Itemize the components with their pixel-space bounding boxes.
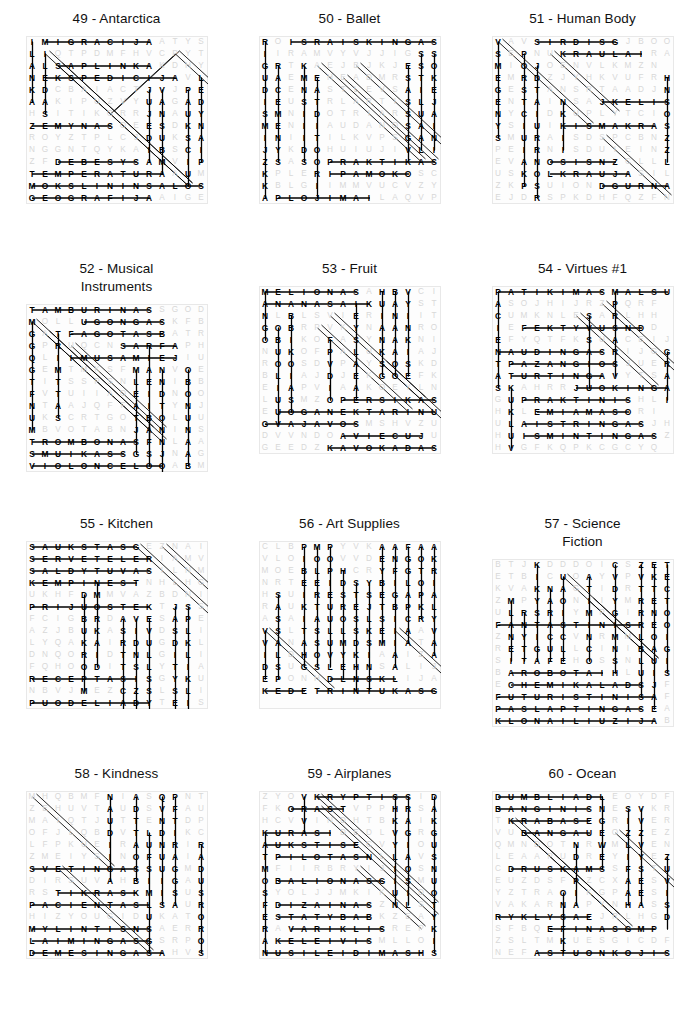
grid-letter: O xyxy=(285,803,298,815)
grid-letter: F xyxy=(557,875,570,887)
grid-letter: K xyxy=(52,96,65,108)
grid-letter: R xyxy=(272,577,285,589)
grid-letter: G xyxy=(609,703,622,715)
grid-letter: S xyxy=(505,120,518,132)
grid-letter: I xyxy=(544,36,557,48)
puzzle-board[interactable]: DUMBLIADLEOYDFBANGINISNESVKRTKRABASEGRIV… xyxy=(492,791,674,959)
grid-letter: O xyxy=(298,192,311,204)
grid-letter: O xyxy=(259,875,272,887)
grid-letter: N xyxy=(635,382,648,394)
puzzle-board[interactable]: TAMBURINASSGODMOLLUGONGASKFBGATFAGOTASBA… xyxy=(26,304,208,472)
grid-letter: R xyxy=(39,436,52,448)
grid-letter: M xyxy=(311,48,324,60)
grid-letter: B xyxy=(492,803,505,815)
grid-letter: J xyxy=(635,947,648,959)
grid-letter: K xyxy=(557,108,570,120)
grid-letter: I xyxy=(363,430,376,442)
grid-letter: F xyxy=(117,364,130,376)
grid-letter: I xyxy=(635,144,648,156)
grid-letter: M xyxy=(544,679,557,691)
grid-letter: D xyxy=(635,84,648,96)
grid-letter: K xyxy=(505,406,518,418)
grid-letter: J xyxy=(622,36,635,48)
grid-letter: L xyxy=(428,601,441,613)
grid-letter: Y xyxy=(622,370,635,382)
grid-letter: S xyxy=(298,96,311,108)
grid-letter: E xyxy=(195,84,208,96)
grid-letter: M xyxy=(272,108,285,120)
grid-letter: A xyxy=(596,406,609,418)
grid-letter: P xyxy=(648,923,661,935)
grid-letter: S xyxy=(39,887,52,899)
grid-letter: U xyxy=(518,132,531,144)
grid-letter: V xyxy=(272,430,285,442)
grid-letter: E xyxy=(143,120,156,132)
grid-letter: N xyxy=(272,298,285,310)
puzzle-board[interactable]: PATIKIMASMALSUASOJHIJRZPQRF CUMKNLESARLH… xyxy=(492,286,674,454)
grid-letter: N xyxy=(492,947,505,959)
grid-letter: M xyxy=(52,120,65,132)
grid-letter: N xyxy=(415,406,428,418)
grid-letter: K xyxy=(622,120,635,132)
puzzle-board[interactable]: ZYOVKRYPTISSIDFKORASTVPPHRSAHCVVINDHTBKA… xyxy=(259,791,441,959)
grid-letter: U xyxy=(91,96,104,108)
grid-letter: U xyxy=(557,851,570,863)
grid-letter: T xyxy=(570,667,583,679)
grid-letter: N xyxy=(117,376,130,388)
grid-letter: S xyxy=(505,935,518,947)
grid-letter: E xyxy=(39,553,52,565)
grid-letter: J xyxy=(622,358,635,370)
puzzle-board[interactable]: SAUKSTASGEZNAISERVETELERIAMVSALDYTUVASIL… xyxy=(26,541,208,709)
grid-letter: L xyxy=(169,565,182,577)
grid-letter: N xyxy=(104,791,117,803)
grid-letter: T xyxy=(130,815,143,827)
grid-letter: A xyxy=(363,286,376,298)
grid-letter: S xyxy=(363,899,376,911)
grid-letter: Z xyxy=(583,875,596,887)
grid-letter: R xyxy=(26,673,39,685)
grid-letter: J xyxy=(609,168,622,180)
puzzle-board[interactable]: VAVSIRDISGJBOOSEPNUKRAULAIRAMIOJOENVLKMZ… xyxy=(492,36,674,204)
grid-letter: S xyxy=(570,691,583,703)
grid-letter: N xyxy=(609,691,622,703)
puzzle-board[interactable]: MHQBMFNIASQPNTZEHUVTAUDSVFAUMAIQTJUTTENT… xyxy=(26,791,208,959)
grid-letter: U xyxy=(78,316,91,328)
grid-letter: S xyxy=(324,84,337,96)
puzzle-board[interactable]: ROISRAISKINGASIIRAMVYVJJIGSSGRTKAEJBJKJE… xyxy=(259,36,441,204)
grid-letter: A xyxy=(130,589,143,601)
grid-letter: G xyxy=(402,827,415,839)
grid-letter: G xyxy=(156,649,169,661)
grid-letter: D xyxy=(324,370,337,382)
grid-letter: S xyxy=(557,911,570,923)
grid-letter: F xyxy=(143,851,156,863)
grid-letter: D xyxy=(26,947,39,959)
grid-letter: F xyxy=(26,388,39,400)
grid-cells: BTJKDDDOICSZETETBICUOAYVPVKEKVAKNAGTIDRT… xyxy=(492,559,674,727)
grid-letter: R xyxy=(389,406,402,418)
grid-letter: S xyxy=(130,156,143,168)
grid-letter: U xyxy=(648,655,661,667)
grid-letter: V xyxy=(156,803,169,815)
grid-letter: F xyxy=(26,661,39,673)
grid-letter: K xyxy=(376,346,389,358)
grid-letter: A xyxy=(104,388,117,400)
grid-letter: L xyxy=(26,637,39,649)
grid-letter: T xyxy=(91,412,104,424)
grid-letter: S xyxy=(415,803,428,815)
grid-letter: L xyxy=(505,418,518,430)
puzzle-board[interactable]: BTJKDDDOICSZETETBICUOAYVPVKEKVAKNAGTIDRT… xyxy=(492,559,674,727)
grid-letter: U xyxy=(376,298,389,310)
grid-letter: O xyxy=(428,60,441,72)
puzzle-board[interactable]: MELIONASAHBVCIANANASAIKUAYSTNLBLSVIERINI… xyxy=(259,286,441,454)
grid-letter: N xyxy=(596,394,609,406)
grid-letter: T xyxy=(285,577,298,589)
grid-letter: T xyxy=(311,132,324,144)
puzzle-board[interactable]: IMIGRACIJAATYSLIQTPDMFHVCPYTALSAPLINKAKD… xyxy=(26,36,208,204)
puzzle-board[interactable]: CLBPMPYVKAAFAAVLOIOOVVDENGOKMOEBLPHCRYFG… xyxy=(259,541,441,709)
grid-letter: M xyxy=(195,460,208,472)
grid-letter: I xyxy=(156,565,169,577)
grid-letter: M xyxy=(596,120,609,132)
grid-letter: E xyxy=(39,168,52,180)
grid-letter: L xyxy=(622,839,635,851)
grid-letter: M xyxy=(298,72,311,84)
